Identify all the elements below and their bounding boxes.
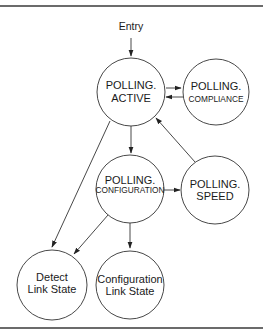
state-polling-configuration: POLLING. CONFIGURATION [96,155,165,223]
svg-text:Link State: Link State [106,285,155,297]
svg-text:ACTIVE: ACTIVE [111,92,151,104]
state-configuration-link: Configuration Link State [96,251,164,319]
svg-text:SPEED: SPEED [196,190,233,202]
svg-text:POLLING.: POLLING. [190,178,241,190]
edge-speed-to-active [156,118,195,162]
svg-text:POLLING.: POLLING. [191,80,242,92]
svg-text:COMPLIANCE: COMPLIANCE [189,94,244,104]
svg-text:Configuration: Configuration [97,273,162,285]
svg-text:Detect: Detect [36,271,68,283]
state-polling-speed: POLLING. SPEED [181,156,249,224]
state-polling-compliance: POLLING. COMPLIANCE [183,59,249,125]
edge-configuration-to-detect [74,215,108,254]
svg-text:Link State: Link State [28,283,77,295]
svg-text:POLLING.: POLLING. [106,79,157,91]
state-polling-active: POLLING. ACTIVE [97,58,165,126]
state-detect-link: Detect Link State [17,250,87,320]
state-diagram: Entry POLLING. ACTIVE POLLING. COMPLIANC… [0,0,263,335]
entry-label: Entry [119,20,144,32]
svg-text:CONFIGURATION: CONFIGURATION [96,185,165,195]
